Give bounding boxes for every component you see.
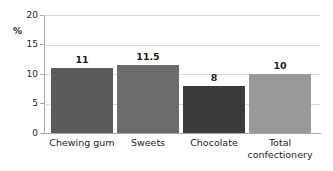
category-label-chewing-gum: Chewing gum (44, 137, 120, 149)
y-tick-label-20: 20 (12, 11, 38, 20)
bar-chart: 20 15 10 5 0 % 11 11.5 8 (0, 0, 333, 171)
category-label-total-confectionery-line1: Total (242, 137, 318, 149)
y-tick-label-15: 15 (12, 40, 38, 49)
y-axis-label: % (13, 27, 22, 36)
category-label-chocolate-line1: Chocolate (190, 137, 238, 148)
plot-area: 11 11.5 8 10 (44, 15, 320, 133)
y-tick-label-5: 5 (12, 99, 38, 108)
bar-value-label-chocolate: 8 (183, 73, 245, 83)
y-tick-label-0: 0 (12, 129, 38, 138)
category-label-total-confectionery: Total confectionery (242, 137, 318, 160)
category-label-sweets-line1: Sweets (131, 137, 165, 148)
bar-chocolate[interactable] (183, 86, 245, 133)
bar-group-chewing-gum: 11 (51, 15, 113, 133)
y-tick-label-10: 10 (12, 70, 38, 79)
bar-group-sweets: 11.5 (117, 15, 179, 133)
category-label-sweets: Sweets (110, 137, 186, 149)
bar-sweets[interactable] (117, 65, 179, 133)
bar-group-chocolate: 8 (183, 15, 245, 133)
bar-value-label-total-confectionery: 10 (249, 61, 311, 71)
category-label-chocolate: Chocolate (176, 137, 252, 149)
bar-total-confectionery[interactable] (249, 74, 311, 133)
bar-value-label-chewing-gum: 11 (51, 55, 113, 65)
category-label-total-confectionery-line2: confectionery (242, 149, 318, 161)
x-axis-category-labels: Chewing gum Sweets Chocolate Total confe… (44, 137, 320, 171)
bar-chewing-gum[interactable] (51, 68, 113, 133)
bar-group-total-confectionery: 10 (249, 15, 311, 133)
category-label-chewing-gum-line1: Chewing gum (49, 137, 114, 148)
x-axis-line (44, 133, 321, 134)
bar-value-label-sweets: 11.5 (117, 52, 179, 62)
